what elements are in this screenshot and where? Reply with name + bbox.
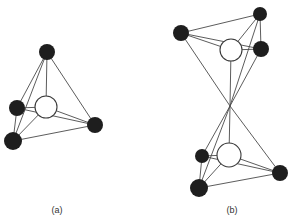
panel-label-a: (a) — [52, 205, 63, 215]
central-sphere — [217, 143, 241, 167]
central-sphere — [220, 39, 242, 61]
atom-sphere — [272, 165, 288, 181]
atom-sphere — [253, 7, 267, 21]
atom-sphere — [4, 132, 22, 150]
atom-sphere — [195, 149, 209, 163]
atom-sphere — [87, 117, 103, 133]
atom-sphere — [39, 44, 55, 60]
atom-sphere — [173, 25, 189, 41]
bond-line — [181, 14, 260, 33]
atom-sphere — [253, 41, 269, 57]
atom-sphere — [9, 100, 25, 116]
double-tetrahedron-b — [173, 7, 288, 197]
atom-sphere — [190, 179, 208, 197]
panel-label-b: (b) — [227, 205, 238, 215]
bond-line — [13, 125, 95, 141]
tetrahedron-a — [4, 44, 103, 150]
central-sphere — [35, 96, 57, 118]
tetrahedra-diagram — [0, 0, 293, 222]
